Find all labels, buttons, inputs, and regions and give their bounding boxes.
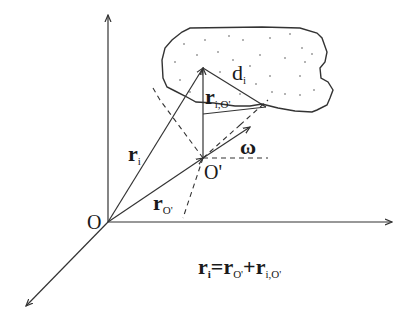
eq-plus: + (243, 254, 256, 279)
label-omega: ω (240, 136, 256, 158)
r-O-main: r (153, 190, 163, 215)
label-origin-prime: O' (204, 162, 222, 182)
label-r-i-O-prime: ri,O' (205, 86, 231, 110)
eq-lhs-main: r (198, 254, 208, 279)
label-origin: O (87, 212, 101, 232)
d-i-main: d (232, 60, 243, 85)
r-i-sub: i (138, 155, 141, 167)
rigid-body-shape (162, 27, 333, 112)
eq-t2-sub: i,O' (265, 268, 281, 280)
r-iO-main: r (205, 84, 215, 109)
depth-axis (26, 222, 108, 306)
eq-t1-main: r (223, 254, 233, 279)
r-i-main: r (128, 141, 138, 166)
r-O-sub: O' (163, 204, 173, 216)
equation: ri=rO'+ri,O' (198, 256, 281, 280)
eq-equals: = (211, 254, 224, 279)
r-iO-sub: i,O' (215, 98, 231, 110)
eq-t2-main: r (256, 254, 266, 279)
d-i-sub: i (243, 74, 246, 86)
label-r-i: ri (128, 143, 141, 167)
eq-t1-sub: O' (233, 268, 243, 280)
label-r-O-prime: rO' (153, 192, 173, 216)
label-d-i: di (232, 62, 246, 86)
